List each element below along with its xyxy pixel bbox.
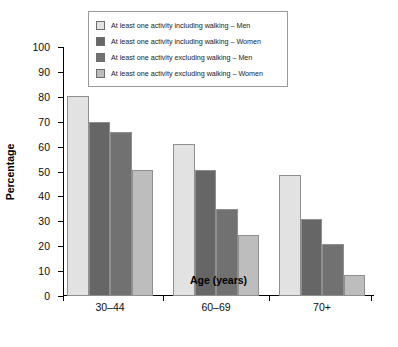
y-axis-tick: 20 (58, 246, 63, 247)
legend-item: At least one activity including walking … (96, 17, 280, 33)
legend-item: At least one activity including walking … (96, 33, 280, 49)
bar (67, 96, 89, 296)
legend-swatch-icon (96, 37, 105, 46)
legend-swatch-icon (96, 69, 105, 78)
y-axis-tick: 80 (58, 97, 63, 98)
y-axis-tick-label: 60 (38, 141, 50, 153)
y-axis-line (63, 47, 64, 297)
y-axis-tick-label: 100 (32, 41, 50, 53)
y-axis-tick: 90 (58, 72, 63, 73)
legend-item-label: At least one activity excluding walking … (111, 69, 263, 78)
legend-item-label: At least one activity excluding walking … (111, 53, 252, 62)
y-axis-tick-label: 10 (38, 265, 50, 277)
x-axis-tick (163, 296, 164, 301)
x-axis-tick (63, 296, 64, 301)
y-axis-tick-label: 30 (38, 215, 50, 227)
y-axis-tick-label: 40 (38, 190, 50, 202)
y-axis-tick: 10 (58, 271, 63, 272)
y-axis-title: Percentage (4, 47, 18, 297)
y-axis-tick: 100 (58, 47, 63, 48)
y-axis-tick: 50 (58, 172, 63, 173)
bar (322, 244, 344, 296)
bar (110, 132, 132, 296)
x-axis-category-label: 60–69 (201, 301, 230, 313)
y-axis-tick: 70 (58, 122, 63, 123)
bar (238, 235, 260, 296)
bar (89, 122, 111, 296)
y-axis-tick: 40 (58, 196, 63, 197)
x-axis-tick (371, 296, 372, 301)
legend-item-label: At least one activity including walking … (111, 37, 261, 46)
y-axis-tick-label: 0 (44, 290, 50, 302)
legend-item-label: At least one activity including walking … (111, 21, 250, 30)
x-axis-category-label: 30–44 (95, 301, 124, 313)
legend-swatch-icon (96, 53, 105, 62)
y-axis-tick-label: 90 (38, 66, 50, 78)
legend-swatch-icon (96, 21, 105, 30)
x-axis-title: Age (years) (63, 274, 374, 286)
y-axis-tick-label: 50 (38, 166, 50, 178)
x-axis-tick (269, 296, 270, 301)
y-axis-tick-label: 80 (38, 91, 50, 103)
bar-chart: At least one activity including walking … (0, 0, 398, 347)
y-axis-tick: 60 (58, 147, 63, 148)
y-axis-tick-label: 70 (38, 116, 50, 128)
x-axis-category-label: 70+ (313, 301, 331, 313)
y-axis-tick-label: 20 (38, 240, 50, 252)
y-axis-tick: 30 (58, 221, 63, 222)
legend-item: At least one activity excluding walking … (96, 49, 280, 65)
legend-item: At least one activity excluding walking … (96, 65, 280, 81)
chart-legend: At least one activity including walking … (88, 11, 288, 87)
